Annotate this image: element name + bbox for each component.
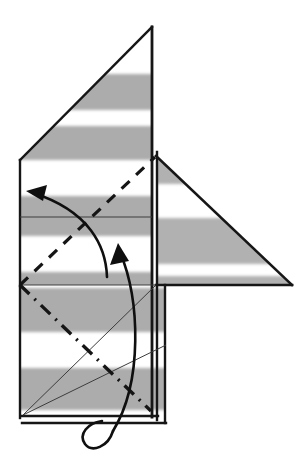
origami-diagram-canvas (0, 0, 307, 460)
stripe-4 (10, 288, 180, 332)
stripe-1 (10, 74, 170, 110)
stripe-5 (10, 368, 180, 410)
stripe-r1 (150, 150, 307, 184)
stripe-2 (10, 126, 170, 160)
origami-figure (0, 0, 307, 460)
wrap-around-arrow-tail (83, 421, 113, 448)
